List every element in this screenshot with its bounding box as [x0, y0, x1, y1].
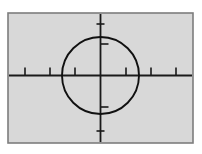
figure-root — [0, 0, 202, 154]
reticle-diagram — [0, 0, 202, 154]
